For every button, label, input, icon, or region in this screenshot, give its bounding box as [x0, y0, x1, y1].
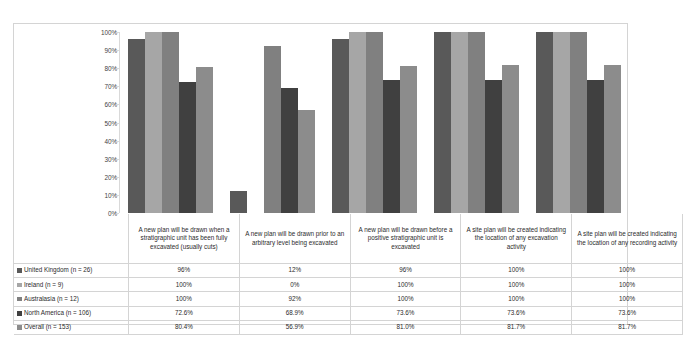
bar — [400, 66, 417, 213]
bar — [128, 39, 145, 213]
bar — [349, 32, 366, 213]
legend-entry[interactable]: Overall (n = 153) — [14, 320, 129, 334]
bar — [298, 110, 315, 213]
bar — [570, 32, 587, 213]
legend-swatch-icon — [17, 297, 22, 302]
legend-entry[interactable]: United Kingdom (n = 26) — [14, 264, 129, 278]
bar — [332, 39, 349, 213]
category-label-cell: A new plan will be drawn prior to an arb… — [239, 214, 350, 264]
legend-entry[interactable]: North America (n = 106) — [14, 306, 129, 320]
data-value-cell: 0% — [239, 278, 350, 292]
y-axis-tick-mark — [116, 177, 119, 178]
data-value-cell: 100% — [572, 292, 683, 306]
category-label-cell: A new plan will be drawn when a stratigr… — [129, 214, 240, 264]
bar — [451, 32, 468, 213]
table-row: North America (n = 106)72.6%68.9%73.6%73… — [14, 306, 682, 320]
legend-swatch-icon — [17, 268, 22, 273]
data-value-cell: 73.6% — [350, 306, 461, 320]
data-value-cell: 100% — [350, 292, 461, 306]
table-row: United Kingdom (n = 26)96%12%96%100%100% — [14, 264, 682, 278]
legend-swatch-icon — [17, 325, 22, 330]
data-value-cell: 92% — [239, 292, 350, 306]
data-value-cell: 81.0% — [350, 320, 461, 334]
data-value-cell: 72.6% — [129, 306, 240, 320]
y-axis-tick-mark — [116, 104, 119, 105]
bar — [230, 191, 247, 213]
legend-swatch-icon — [17, 311, 22, 316]
data-value-cell: 81.7% — [461, 320, 572, 334]
data-value-cell: 100% — [461, 278, 572, 292]
legend-entry-label: Overall (n = 153) — [24, 323, 71, 330]
bar-group — [120, 32, 222, 213]
data-table-body: A new plan will be drawn when a stratigr… — [14, 214, 682, 334]
bar-group — [425, 32, 527, 213]
data-value-cell: 96% — [129, 264, 240, 278]
category-label-text: A new plan will be drawn when a stratigr… — [133, 226, 235, 251]
table-row: Overall (n = 153)80.4%56.9%81.0%81.7%81.… — [14, 320, 682, 334]
data-value-cell: 68.9% — [239, 306, 350, 320]
data-value-cell: 12% — [239, 264, 350, 278]
data-value-cell: 100% — [129, 292, 240, 306]
category-header-row: A new plan will be drawn when a stratigr… — [14, 214, 682, 264]
data-value-cell: 100% — [572, 264, 683, 278]
category-label-text: A site plan will be created indicating t… — [576, 230, 678, 247]
bar — [587, 80, 604, 213]
bar — [366, 32, 383, 213]
bar — [604, 65, 621, 213]
category-label-text: A new plan will be drawn before a positi… — [355, 226, 457, 251]
bar — [179, 82, 196, 213]
bar — [502, 65, 519, 213]
legend-entry[interactable]: Australasia (n = 12) — [14, 292, 129, 306]
y-axis-tick-mark — [116, 68, 119, 69]
y-axis-tick-mark — [116, 50, 119, 51]
y-axis-tick-mark — [116, 195, 119, 196]
bar — [553, 32, 570, 213]
legend-swatch-icon — [17, 283, 22, 288]
bar — [468, 32, 485, 213]
legend-entry[interactable]: Ireland (n = 9) — [14, 278, 129, 292]
y-axis-tick-mark — [116, 32, 119, 33]
plot-region: 0%10%20%30%40%50%60%70%80%90%100% — [14, 24, 629, 214]
category-label-cell: A site plan will be created indicating t… — [572, 214, 683, 264]
y-axis-tick-mark — [116, 159, 119, 160]
bar — [162, 32, 179, 213]
bar — [536, 32, 553, 213]
bar — [485, 80, 502, 213]
legend-entry-label: North America (n = 106) — [24, 309, 91, 316]
table-corner-cell — [14, 214, 129, 264]
table-row: Ireland (n = 9)100%0%100%100%100% — [14, 278, 682, 292]
data-value-cell: 100% — [350, 278, 461, 292]
bar — [434, 32, 451, 213]
y-axis-tick-mark — [116, 123, 119, 124]
bars-plot-area — [120, 32, 629, 213]
data-value-cell: 73.6% — [461, 306, 572, 320]
bar-group — [324, 32, 426, 213]
data-value-cell: 81.7% — [572, 320, 683, 334]
category-label-cell: A site plan will be created indicating t… — [461, 214, 572, 264]
data-value-cell: 73.6% — [572, 306, 683, 320]
category-label-text: A new plan will be drawn prior to an arb… — [244, 230, 346, 247]
category-label-text: A site plan will be created indicating t… — [465, 226, 567, 251]
data-value-cell: 80.4% — [129, 320, 240, 334]
bar — [281, 88, 298, 213]
category-label-cell: A new plan will be drawn before a positi… — [350, 214, 461, 264]
chart-data-table: A new plan will be drawn when a stratigr… — [14, 214, 683, 335]
data-value-cell: 100% — [129, 278, 240, 292]
data-value-cell: 100% — [572, 278, 683, 292]
legend-entry-label: Australasia (n = 12) — [24, 295, 79, 302]
y-axis-tick-label: 100% — [101, 29, 117, 36]
legend-entry-label: United Kingdom (n = 26) — [24, 266, 92, 273]
legend-entry-label: Ireland (n = 9) — [24, 281, 63, 288]
data-value-cell: 56.9% — [239, 320, 350, 334]
chart-frame: 0%10%20%30%40%50%60%70%80%90%100% A new … — [13, 23, 628, 325]
y-axis: 0%10%20%30%40%50%60%70%80%90%100% — [89, 28, 117, 210]
y-axis-tick-mark — [116, 141, 119, 142]
bar — [196, 67, 213, 213]
bar-group — [222, 32, 324, 213]
y-axis-tick-mark — [116, 86, 119, 87]
bar — [383, 80, 400, 213]
bar — [264, 46, 281, 213]
bar — [145, 32, 162, 213]
bar-group — [527, 32, 629, 213]
data-value-cell: 100% — [461, 292, 572, 306]
